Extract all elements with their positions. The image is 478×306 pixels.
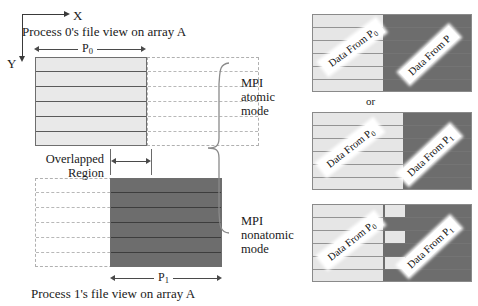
mode-atomic-line-1: MPI: [241, 76, 275, 90]
or-separator: or: [366, 95, 375, 107]
mode-atomic-line-3: mode: [241, 104, 275, 118]
mode-label-atomic: MPI atomic mode: [241, 76, 275, 118]
y-axis-arrow-icon: [19, 56, 25, 62]
mode-nonatomic-line-2: nonatomic: [241, 228, 294, 242]
overlapped-region-label: Overlapped Region: [26, 152, 104, 180]
x-axis-label: X: [73, 8, 82, 24]
panel3-interleave-seg: [385, 231, 405, 243]
x-axis-arrow-icon: [64, 11, 70, 17]
process0-owned-region: [35, 57, 147, 146]
overlap-dimension-arrow: [110, 149, 162, 175]
mode-atomic-line-2: atomic: [241, 90, 275, 104]
p1-label: P1: [154, 270, 173, 285]
x-axis-line: [22, 14, 66, 15]
bottom-caption: Process 1's file view on array A: [31, 286, 195, 302]
top-caption: Process 0's file view on array A: [22, 24, 186, 40]
y-axis-label: Y: [7, 56, 16, 72]
panel3-interleave-seg: [385, 205, 405, 217]
p1-dimension-arrow: P1: [110, 271, 222, 285]
mode-label-nonatomic: MPI nonatomic mode: [241, 214, 294, 256]
grouping-brace-icon: [205, 62, 231, 234]
mode-nonatomic-line-1: MPI: [241, 214, 294, 228]
p0-dimension-arrow: P0: [34, 42, 146, 56]
overlap-line-1: Overlapped: [26, 152, 104, 166]
mode-nonatomic-line-3: mode: [241, 242, 294, 256]
p0-label: P0: [78, 41, 97, 56]
